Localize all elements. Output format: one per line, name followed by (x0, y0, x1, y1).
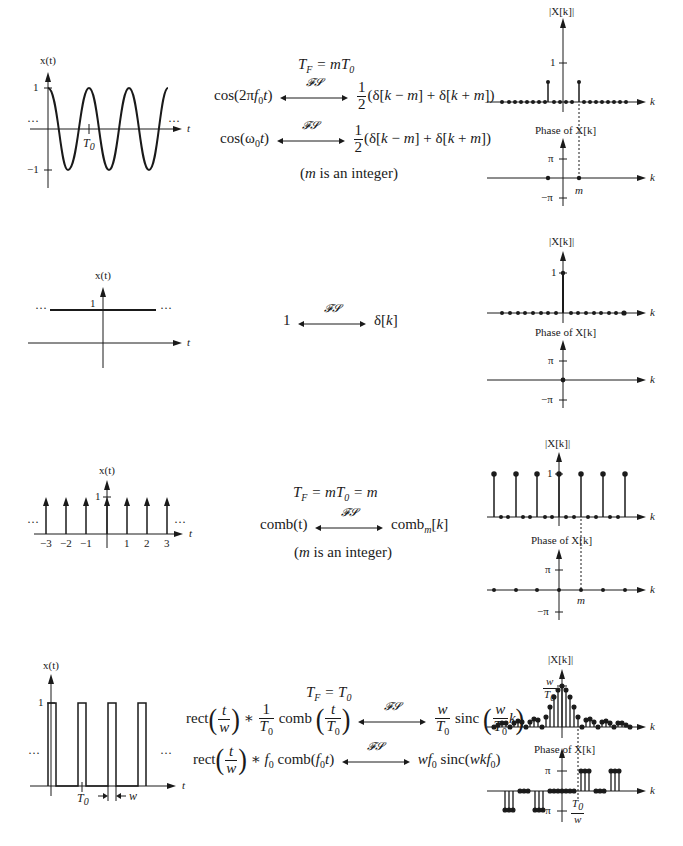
comb-mag-title: |X[k]| (545, 437, 570, 449)
rect-phase-tick-pos: π (545, 764, 551, 776)
constant-phase-tick-pos: π (548, 354, 554, 366)
rect-phase-tick-neg: −π (539, 804, 551, 816)
cosine-phase-marker: m (575, 184, 583, 196)
comb-mag-xlabel: k (650, 510, 655, 522)
rect-phase-marker: T0w (570, 798, 585, 825)
rect-phase-xlabel: k (650, 784, 655, 796)
rect-phase-title: Phase of X[k] (534, 743, 595, 755)
rect-mag-xlabel: k (650, 720, 655, 732)
rect-mag-title: |X[k]| (548, 653, 573, 665)
comb-phase-title: Phase of X[k] (531, 534, 592, 546)
comb-mag-tick: 1 (547, 467, 553, 479)
cosine-mag-tick: 1 (550, 56, 556, 68)
row-constant: x(t) 1 t ··· ··· 1 𝓕𝓢 δ[k] |X[k]| 1 k Ph… (0, 230, 683, 430)
cosine-mag-xlabel: k (650, 95, 655, 107)
constant-mag-xlabel: k (650, 306, 655, 318)
cosine-phase-tick-neg: −π (541, 191, 553, 203)
constant-mag-tick: 1 (551, 266, 557, 278)
comb-magnitude-impulses (492, 472, 627, 517)
constant-phase-tick-neg: −π (541, 393, 553, 405)
cosine-mag-title: |X[k]| (549, 5, 574, 17)
cosine-phase-axes (487, 138, 646, 206)
row-rect-train: x(t) 1 t T0 w ··· ··· TF = T0 rect(tw) ∗… (0, 646, 683, 846)
rect-magnitude-stems (492, 684, 632, 729)
row-cosine: x(t) 1 −1 T0 t ··· ··· TF = mT0 cos(2πf0… (0, 0, 683, 220)
cosine-magnitude-dots (500, 100, 628, 104)
cosine-phase-title: Phase of X[k] (535, 124, 596, 136)
cosine-phase-tick-pos: π (548, 152, 554, 164)
comb-phase-xlabel: k (650, 583, 655, 595)
comb-phase-tick-neg: −π (537, 605, 549, 617)
comb-phase-tick-pos: π (545, 563, 551, 575)
constant-mag-title: |X[k]| (549, 235, 574, 247)
constant-phase-xlabel: k (650, 373, 655, 385)
constant-phase-title: Phase of X[k] (535, 326, 596, 338)
rect-mag-tick: wT0 (542, 676, 557, 703)
cosine-magnitude-axes (487, 18, 646, 180)
cosine-phase-xlabel: k (650, 171, 655, 183)
comb-phase-marker: m (577, 594, 585, 606)
row-comb: x(t) 1 t −3 −2 −1 1 2 3 ··· ··· TF = mT0… (0, 430, 683, 640)
